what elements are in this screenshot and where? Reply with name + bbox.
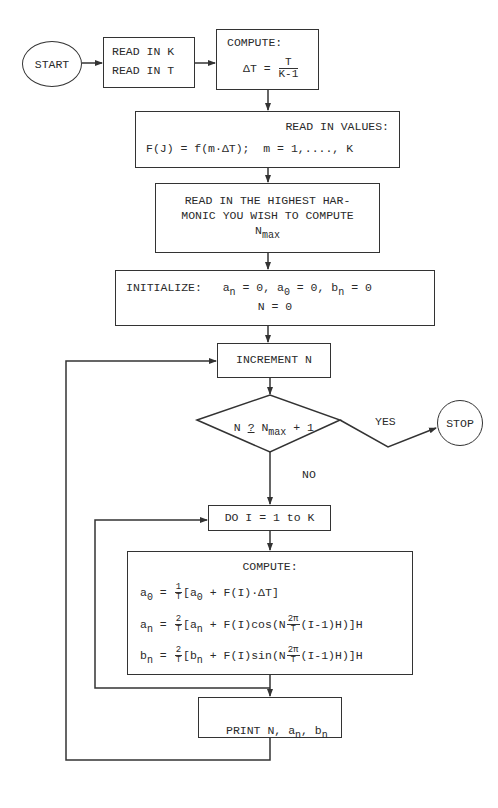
- stop-terminal: STOP: [437, 400, 483, 446]
- compute-coeffs-title: COMPUTE:: [128, 560, 412, 575]
- dt-formula: ΔT = T K-1: [227, 57, 318, 80]
- yes-label: YES: [375, 415, 396, 428]
- read-inputs-box: READ IN K READ IN T: [103, 37, 195, 88]
- initialize-line1: INITIALIZE: an = 0, a0 = 0, bn = 0: [126, 281, 434, 299]
- do-loop-box: DO I = 1 to K: [208, 505, 331, 531]
- harmonic-line1: READ IN THE HIGHEST HAR-: [156, 194, 379, 209]
- read-harmonic-box: READ IN THE HIGHEST HAR- MONIC YOU WISH …: [155, 183, 380, 253]
- nmax-var: Nmax: [156, 224, 379, 242]
- increment-box: INCREMENT N: [217, 343, 331, 378]
- dt-denominator: K-1: [279, 69, 299, 80]
- start-label: START: [35, 58, 70, 71]
- a0-equation: a0 = 1T[a0 + F(I)·ΔT]: [140, 583, 279, 604]
- compute-coeffs-box: COMPUTE: a0 = 1T[a0 + F(I)·ΔT] an = 2T[a…: [127, 551, 413, 675]
- read-values-formula: F(J) = f(m·ΔT); m = 1,...., K: [146, 142, 389, 157]
- dt-lhs: ΔT =: [243, 61, 271, 74]
- start-terminal: START: [22, 41, 82, 87]
- compute-dt-box: COMPUTE: ΔT = T K-1: [216, 29, 319, 90]
- read-k-text: READ IN K: [112, 45, 194, 60]
- initialize-box: INITIALIZE: an = 0, a0 = 0, bn = 0 N = 0: [115, 270, 435, 326]
- do-loop-label: DO I = 1 to K: [225, 511, 315, 524]
- dt-fraction: T K-1: [279, 57, 299, 80]
- harmonic-line2: MONIC YOU WISH TO COMPUTE: [156, 209, 379, 224]
- bn-equation: bn = 2T[bn + F(I)sin(N2πT(I-1)H)]H: [140, 646, 363, 667]
- compute-dt-title: COMPUTE:: [227, 36, 318, 51]
- print-box: PRINT N, an, bn: [198, 697, 342, 738]
- an-equation: an = 2T[an + F(I)cos(N2πT(I-1)H)]H: [140, 615, 363, 636]
- increment-label: INCREMENT N: [236, 353, 312, 366]
- read-values-title: READ IN VALUES:: [146, 120, 389, 135]
- print-text: PRINT N, a: [226, 724, 295, 737]
- read-values-box: READ IN VALUES: F(J) = f(m·ΔT); m = 1,..…: [135, 111, 400, 168]
- decision-text: N ? Nmax + 1: [220, 408, 314, 438]
- initialize-line2: N = 0: [126, 300, 434, 315]
- no-label: NO: [302, 468, 316, 481]
- stop-label: STOP: [446, 417, 474, 430]
- read-t-text: READ IN T: [112, 64, 194, 79]
